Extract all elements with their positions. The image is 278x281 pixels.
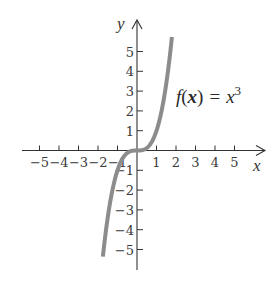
y-tick-label: 3 xyxy=(126,84,134,99)
equals-sign: = xyxy=(209,86,220,107)
x-axis-label: x xyxy=(252,156,261,175)
x-tick-label: 4 xyxy=(211,155,219,170)
y-axis-label: y xyxy=(115,14,125,33)
axes xyxy=(22,20,265,270)
x-tick-label: 1 xyxy=(152,155,160,170)
y-tick-label: −4 xyxy=(115,223,134,238)
function-label: f(x)=x3 xyxy=(176,83,241,108)
x-tick-label: −2 xyxy=(88,155,107,170)
x-tick-label: −3 xyxy=(69,155,88,170)
y-tick-label: −3 xyxy=(115,203,134,218)
y-tick-label: 4 xyxy=(126,64,134,79)
y-tick-label: −5 xyxy=(115,243,134,258)
x-tick-label: 5 xyxy=(230,155,238,170)
y-tick-label: −2 xyxy=(115,183,134,198)
x-tick-label: −4 xyxy=(49,155,68,170)
y-tick-label: 5 xyxy=(126,45,134,60)
x-tick-label: −5 xyxy=(30,155,49,170)
x-tick-label: 2 xyxy=(172,155,180,170)
cubic-function-graph: −5−4−3−2−11234554321−1−2−3−4−5 x y f(x)=… xyxy=(0,0,278,281)
close-paren: ) xyxy=(197,86,203,108)
x-tick-label: 3 xyxy=(191,155,199,170)
y-tick-label: 2 xyxy=(126,104,134,119)
function-arg: x xyxy=(187,86,198,107)
rhs-exponent: 3 xyxy=(235,83,242,98)
y-tick-label: 1 xyxy=(126,124,134,139)
